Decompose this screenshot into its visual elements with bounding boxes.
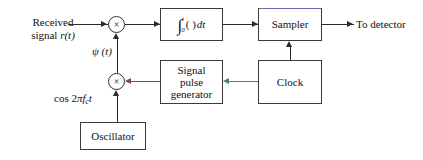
integrator-expression: ∫t0( )dt xyxy=(178,17,206,32)
spg-line-2: pulse xyxy=(180,76,203,88)
wire-oscillator-to-mult2 xyxy=(117,96,118,122)
integral-upper-limit: t xyxy=(181,16,185,23)
spg-line-1: Signal xyxy=(177,64,205,76)
received-signal-symbol: r(t) xyxy=(60,29,75,41)
wire-clock-to-spg xyxy=(225,81,258,82)
received-signal-line1: Received xyxy=(14,16,92,29)
oscillator-label: Oscillator xyxy=(91,130,134,142)
wire-spg-to-mult2 xyxy=(127,81,161,82)
integral-lower-limit: 0 xyxy=(181,27,185,34)
arrowhead-spg-to-mult2 xyxy=(125,78,131,84)
wire-mult2-to-mult1 xyxy=(117,39,118,73)
psi-text: ψ (t) xyxy=(92,45,112,57)
wire-clock-to-sampler xyxy=(290,47,291,60)
signal-pulse-generator-box[interactable]: Signal pulse generator xyxy=(160,60,223,104)
clock-label: Clock xyxy=(277,76,303,88)
psi-signal-label: ψ (t) xyxy=(92,45,112,58)
carrier-t: t xyxy=(89,92,92,104)
sampler-top-accent xyxy=(259,8,321,9)
carrier-prefix: cos 2 xyxy=(54,92,77,104)
oscillator-box[interactable]: Oscillator xyxy=(80,122,146,150)
multiplier-1-symbol: × xyxy=(114,19,120,29)
carrier-signal-label: cos 2πfct xyxy=(54,92,92,107)
to-detector-label: To detector xyxy=(356,18,406,31)
arrowhead-input-to-mult1 xyxy=(101,21,107,27)
sampler-label: Sampler xyxy=(272,18,309,30)
arrowhead-sampler-to-detector xyxy=(347,21,353,27)
arrowhead-oscillator-to-mult2 xyxy=(113,90,119,96)
integral-body: ( ) xyxy=(186,18,196,30)
received-signal-line2: signal r(t) xyxy=(14,29,92,42)
arrowhead-clock-to-sampler xyxy=(286,41,292,47)
multiplier-1[interactable]: × xyxy=(108,16,125,33)
received-signal-word-signal: signal xyxy=(31,29,60,41)
clock-box[interactable]: Clock xyxy=(258,60,322,104)
arrowhead-mult2-to-mult1 xyxy=(113,33,119,39)
spg-line-3: generator xyxy=(171,88,213,100)
sampler-box[interactable]: Sampler xyxy=(258,8,322,41)
received-signal-label: Received signal r(t) xyxy=(14,16,92,41)
multiplier-2[interactable]: × xyxy=(108,73,125,90)
multiplier-2-symbol: × xyxy=(114,76,120,86)
arrowhead-clock-to-spg xyxy=(223,78,229,84)
integral-dt: dt xyxy=(197,18,206,30)
to-detector-text: To detector xyxy=(356,18,406,30)
block-diagram-canvas: Received signal r(t) × ∫t0( )dt Sampler … xyxy=(0,0,423,160)
integrator-box[interactable]: ∫t0( )dt xyxy=(160,8,223,41)
